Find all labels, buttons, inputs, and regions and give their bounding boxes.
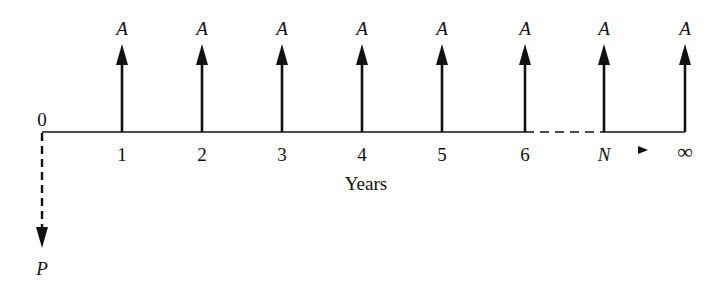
period-label-N: N: [598, 145, 611, 164]
payment-label-2: A: [196, 19, 208, 38]
payment-label-1: A: [116, 19, 128, 38]
payment-arrows: [116, 44, 691, 132]
payment-arrow-infinity: [679, 44, 691, 132]
period-label-5: 5: [437, 145, 447, 164]
period-label-3: 3: [277, 145, 287, 164]
payment-arrow-6: [519, 44, 531, 132]
present-value-label: P: [36, 259, 48, 278]
present-value-arrow: [36, 133, 48, 248]
payment-arrow-2: [196, 44, 208, 132]
payment-arrow-N: [598, 44, 610, 132]
period-label-4: 4: [357, 145, 367, 164]
payment-arrow-4: [356, 44, 368, 132]
payment-arrow-5: [436, 44, 448, 132]
payment-label-5: A: [436, 19, 448, 38]
period-label-2: 2: [197, 145, 207, 164]
period-label-6: 6: [520, 145, 530, 164]
payment-arrow-3: [276, 44, 288, 132]
payment-label-N: A: [598, 19, 610, 38]
axis-label-years: Years: [345, 174, 387, 193]
origin-label: 0: [37, 110, 47, 129]
period-label-infinity: ∞: [677, 141, 693, 163]
payment-label-3: A: [276, 19, 288, 38]
payment-arrow-1: [116, 44, 128, 132]
payment-label-6: A: [519, 19, 531, 38]
payment-label-infinity: A: [679, 19, 691, 38]
payment-label-4: A: [356, 19, 368, 38]
period-label-1: 1: [117, 145, 127, 164]
continuation-arrow-icon: [638, 146, 648, 154]
